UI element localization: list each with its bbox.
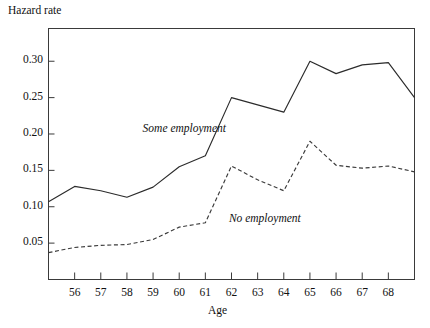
x-tick-label: 59 bbox=[142, 286, 164, 298]
x-tick-label: 62 bbox=[221, 286, 243, 298]
x-tick-label: 68 bbox=[377, 286, 399, 298]
y-tick-label: 0.30 bbox=[9, 53, 43, 65]
y-tick-label: 0.10 bbox=[9, 199, 43, 211]
y-tick-label: 0.05 bbox=[9, 235, 43, 247]
y-axis-title: Hazard rate bbox=[8, 4, 61, 16]
x-tick-label: 58 bbox=[116, 286, 138, 298]
y-tick-label: 0.20 bbox=[9, 126, 43, 138]
x-tick-label: 60 bbox=[168, 286, 190, 298]
x-tick-label: 65 bbox=[299, 286, 321, 298]
x-tick-label: 63 bbox=[247, 286, 269, 298]
x-tick-label: 66 bbox=[325, 286, 347, 298]
plot-area bbox=[0, 0, 430, 328]
y-tick-label: 0.15 bbox=[9, 162, 43, 174]
y-tick-label: 0.25 bbox=[9, 90, 43, 102]
hazard-rate-line-chart: Hazard rate 0.050.100.150.200.250.30 565… bbox=[0, 0, 430, 328]
x-tick-label: 57 bbox=[90, 286, 112, 298]
x-axis-title: Age bbox=[208, 304, 227, 316]
series-annotation-no-employment: No employment bbox=[229, 212, 301, 224]
series-annotation-some-employment: Some employment bbox=[143, 122, 226, 134]
x-tick-label: 64 bbox=[273, 286, 295, 298]
x-tick-label: 61 bbox=[194, 286, 216, 298]
x-tick-label: 56 bbox=[64, 286, 86, 298]
x-tick-label: 67 bbox=[351, 286, 373, 298]
